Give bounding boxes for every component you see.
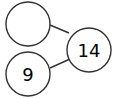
part-circle-top[interactable]	[6, 2, 50, 46]
number-bond-diagram: 9 14	[0, 0, 130, 99]
whole-circle: 14	[67, 28, 111, 72]
part-circle-bottom: 9	[6, 52, 50, 96]
part-bottom-value: 9	[22, 64, 33, 85]
connector-bottom	[50, 59, 70, 68]
whole-value: 14	[78, 40, 101, 61]
connector-top	[50, 25, 69, 33]
